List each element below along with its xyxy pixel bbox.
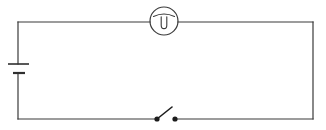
meter-circle (150, 7, 178, 35)
battery-symbol (8, 64, 29, 73)
meter-arc-icon (154, 14, 175, 17)
circuit-canvas (0, 0, 326, 130)
meter-filament-icon (161, 17, 167, 29)
switch-left-terminal-dot (154, 116, 159, 121)
switch-lever[interactable] (157, 107, 172, 119)
meter-symbol (150, 7, 178, 35)
switch-right-terminal-dot (172, 116, 177, 121)
circuit-diagram (0, 0, 326, 130)
switch-symbol[interactable] (154, 107, 177, 122)
